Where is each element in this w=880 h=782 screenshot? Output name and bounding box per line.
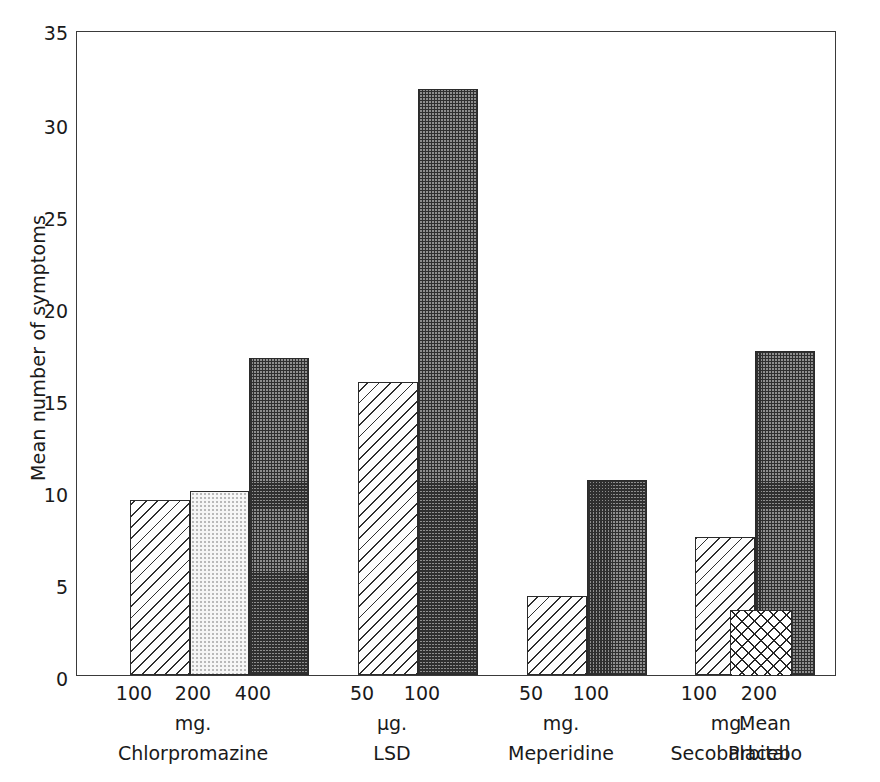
x-group-name-meperidine: Meperidine	[471, 742, 651, 764]
x-group-name-mean: Mean	[700, 712, 830, 734]
x-group-unit-lsd: µg.	[327, 712, 457, 734]
x-tick-meperidine-100: 100	[556, 682, 626, 704]
x-group-name-chlorpromazine: Chlorpromazine	[88, 742, 298, 764]
x-tick-chlorpromazine-400: 400	[218, 682, 288, 704]
plot-area	[76, 31, 836, 676]
y-tick-label-25: 25	[18, 210, 68, 229]
y-tick-label-0: 0	[18, 670, 68, 689]
x-group-name-placebo: Placebo	[700, 742, 830, 764]
bar-lsd-100	[418, 89, 478, 675]
y-tick-label-30: 30	[18, 118, 68, 137]
x-group-unit-chlorpromazine: mg.	[128, 712, 258, 734]
y-tick-label-20: 20	[18, 302, 68, 321]
y-tick-label-10: 10	[18, 486, 68, 505]
y-tick-label-35: 35	[18, 24, 68, 43]
bar-mean-placebo	[730, 610, 792, 676]
x-tick-secobarbital-200: 200	[724, 682, 794, 704]
bar-chlorpromazine-100	[130, 500, 190, 675]
bar-meperidine-50	[527, 596, 587, 675]
bar-chart-figure: Mean number of symptoms 0 5 10 15 20 25 …	[0, 0, 880, 782]
x-group-name-lsd: LSD	[322, 742, 462, 764]
y-tick-label-15: 15	[18, 394, 68, 413]
y-tick-label-5: 5	[18, 578, 68, 597]
bar-meperidine-100	[587, 480, 647, 675]
x-tick-lsd-100: 100	[387, 682, 457, 704]
bar-chlorpromazine-200	[190, 491, 249, 675]
bar-chlorpromazine-400	[249, 358, 309, 675]
x-group-unit-meperidine: mg.	[496, 712, 626, 734]
bar-lsd-50	[358, 382, 418, 675]
y-axis-label: Mean number of symptoms	[27, 221, 49, 481]
